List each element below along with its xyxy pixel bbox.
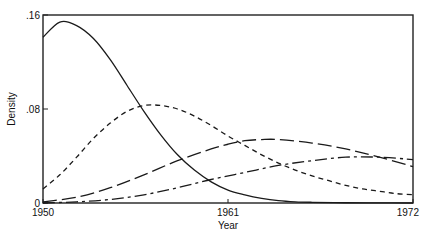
x-tick-label: 1972 [397, 207, 420, 218]
series-short-dash-line [43, 105, 413, 195]
x-axis-ticks: 195019611972 [32, 199, 420, 218]
series-long-dash-line [43, 139, 413, 202]
series-lines [43, 21, 413, 203]
x-tick-label: 1961 [217, 207, 240, 218]
y-tick-label: .08 [26, 104, 40, 115]
density-chart: 0.08.16 195019611972 Year Density [0, 0, 428, 242]
y-tick-label: .16 [26, 10, 40, 21]
y-axis-ticks: 0.08.16 [26, 10, 48, 209]
x-tick-label: 1950 [32, 207, 55, 218]
y-axis-title: Density [6, 92, 17, 125]
series-dash-dot-line [43, 157, 413, 203]
x-axis-title: Year [218, 220, 239, 231]
